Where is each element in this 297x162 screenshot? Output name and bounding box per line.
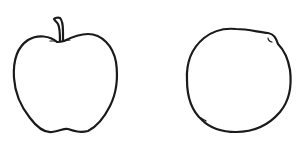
apple-stem [54,18,63,41]
orange-navel [268,38,272,42]
orange [187,29,291,132]
apple-body [14,34,117,132]
fruit-illustration [0,0,297,162]
apple [14,18,117,133]
orange-body [187,29,291,132]
